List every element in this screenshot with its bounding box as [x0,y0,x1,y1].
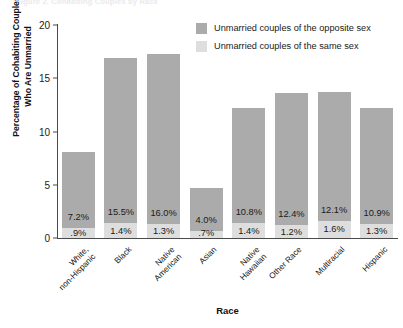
bar-group[interactable]: 1.4%15.5% [104,58,137,238]
bar-group[interactable]: 1.3%10.9% [360,108,393,238]
bar-segment-same-sex[interactable] [104,223,137,238]
bar-segment-opposite-sex[interactable] [232,108,265,223]
y-tick-label: 0 [0,233,50,244]
bar-segment-same-sex[interactable] [62,228,95,238]
y-tick-label: 15 [0,73,50,84]
bar-segment-opposite-sex[interactable] [318,92,351,221]
legend-swatch-icon [196,41,207,52]
bar-group[interactable]: 1.3%16.0% [147,54,180,238]
bar-segment-opposite-sex[interactable] [147,54,180,224]
bar-segment-same-sex[interactable] [360,224,393,238]
x-axis-title: Race [57,305,398,316]
chart-title: Figure 2. Cohabiting Couples by Race [16,0,246,7]
bar-segment-same-sex[interactable] [190,231,223,238]
y-tick-label: 10 [0,126,50,137]
bar-segment-same-sex[interactable] [318,221,351,238]
bar-segment-same-sex[interactable] [147,224,180,238]
bar-chart-figure: Figure 2. Cohabiting Couples by Race Per… [0,0,403,328]
legend-item[interactable]: Unmarried couples of the opposite sex [196,21,401,35]
bar-segment-opposite-sex[interactable] [104,58,137,223]
legend-item[interactable]: Unmarried couples of the same sex [196,39,401,53]
bar-group[interactable]: .7%4.0% [190,188,223,238]
bar-group[interactable]: 1.4%10.8% [232,108,265,238]
legend-label: Unmarried couples of the same sex [214,41,359,51]
bar-segment-same-sex[interactable] [232,223,265,238]
bar-segment-opposite-sex[interactable] [190,188,223,231]
legend-swatch-icon [196,23,207,34]
chart-legend: Unmarried couples of the opposite sexUnm… [196,21,401,57]
bar-group[interactable]: 1.6%12.1% [318,92,351,238]
legend-label: Unmarried couples of the opposite sex [214,23,371,33]
bar-segment-opposite-sex[interactable] [360,108,393,224]
y-tick-label: 5 [0,179,50,190]
bar-segment-opposite-sex[interactable] [275,93,308,225]
bar-group[interactable]: 1.2%12.4% [275,93,308,238]
y-tick-label: 20 [0,20,50,31]
x-axis-line [57,238,398,239]
bar-segment-opposite-sex[interactable] [62,152,95,229]
bar-group[interactable]: .9%7.2% [62,152,95,238]
bar-segment-same-sex[interactable] [275,225,308,238]
